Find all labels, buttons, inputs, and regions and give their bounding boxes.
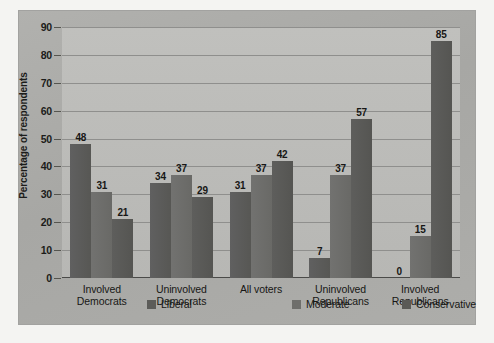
bar-conservative [112,219,133,278]
y-tick-mark [54,27,61,28]
y-tick-label: 70 [41,77,52,89]
bar-liberal [150,183,171,278]
y-tick-label: 50 [41,133,52,145]
bar-moderate [91,192,112,278]
bar-conservative [272,161,293,278]
legend-label: Liberal [161,298,192,310]
bar-value-label: 85 [426,29,456,40]
bar-moderate [251,175,272,278]
bar-group: 343729 [150,27,213,278]
y-tick-label: 20 [41,216,52,228]
y-tick-mark [54,83,61,84]
chart-figure-panel: Percentage of respondents 01020304050607… [18,10,476,325]
y-tick-mark [54,222,61,223]
bar-value-label: 57 [347,107,377,118]
plot-area: 4831213437293137427375701585 [62,27,460,278]
bar-group: 313742 [230,27,293,278]
bar-conservative [192,197,213,278]
bar-value-label: 29 [187,185,217,196]
bar-value-label: 48 [66,132,96,143]
bar-value-label: 21 [108,207,138,218]
chart-legend: LiberalModerateConservative [62,298,460,314]
legend-item-liberal[interactable]: Liberal [147,298,192,310]
bar-group: 483121 [70,27,133,278]
legend-swatch-icon [292,300,301,309]
y-tick-label: 80 [41,49,52,61]
bar-group: 73757 [309,27,372,278]
y-tick-label: 30 [41,188,52,200]
y-tick-label: 40 [41,160,52,172]
legend-label: Conservative [416,298,476,310]
bar-moderate [330,175,351,278]
y-tick-label: 10 [41,244,52,256]
y-tick-mark [54,278,61,279]
bar-value-label: 42 [267,149,297,160]
y-tick-label: 90 [41,21,52,33]
y-tick-mark [54,250,61,251]
bar-value-label: 37 [166,163,196,174]
bar-moderate [410,236,431,278]
bar-group: 01585 [389,27,452,278]
y-tick-mark [54,55,61,56]
bar-conservative [431,41,452,278]
y-tick-mark [54,111,61,112]
bar-value-label: 31 [87,180,117,191]
legend-swatch-icon [402,300,411,309]
category-label-line: Involved [365,283,475,295]
legend-swatch-icon [147,300,156,309]
y-tick-mark [54,166,61,167]
bar-liberal [70,144,91,278]
bar-liberal [309,258,330,278]
bar-liberal [230,192,251,278]
y-axis-label: Percentage of respondents [18,10,29,261]
y-tick-label: 60 [41,105,52,117]
legend-label: Moderate [306,298,350,310]
y-tick-mark [54,139,61,140]
bar-conservative [351,119,372,278]
y-tick-mark [54,194,61,195]
chart-page: Percentage of respondents 01020304050607… [0,0,494,343]
legend-item-conservative[interactable]: Conservative [402,298,476,310]
legend-item-moderate[interactable]: Moderate [292,298,350,310]
